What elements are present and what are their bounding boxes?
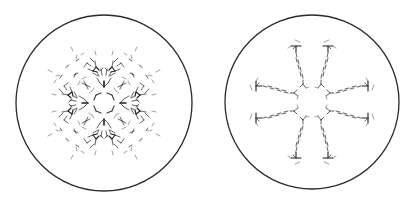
structure-right-motif [250, 40, 374, 164]
molecular-structure-left [0, 0, 208, 202]
structure-panel-right [208, 0, 416, 202]
structure-panel-left [0, 0, 208, 202]
boundary-circle [225, 15, 399, 189]
boundary-circle [16, 15, 192, 191]
molecular-structure-right [208, 0, 416, 202]
structure-left-motif [48, 47, 160, 159]
